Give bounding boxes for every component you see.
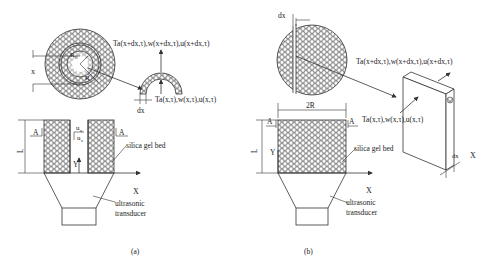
slab-element xyxy=(400,72,460,178)
label-L-a: L xyxy=(16,148,25,153)
label-transducer-a-2: transducer xyxy=(115,209,147,218)
caption-b: (b) xyxy=(304,247,313,256)
cylinder-cross-section xyxy=(277,14,396,97)
label-bed-a: silica gel bed xyxy=(126,141,166,150)
label-L-b: L xyxy=(250,148,259,153)
label-2R: 2R xyxy=(306,101,315,110)
caption-a: (a) xyxy=(131,247,140,256)
label-Y-a: Y xyxy=(73,160,79,169)
label-r: R xyxy=(85,74,90,82)
label-top-flux-b: Ta(x+dx,τ),w(x+dx,τ),u(x+dx,τ) xyxy=(356,57,453,66)
label-A-right-b: A xyxy=(349,117,355,126)
label-transducer-a-1: ultrasonic xyxy=(115,199,145,208)
panel-b: dx Ta(x+dx,τ),w(x+dx,τ),u(x+dx,τ) Ta(x,τ… xyxy=(250,11,476,256)
label-A-left-a: A xyxy=(33,128,39,137)
label-X-a: X xyxy=(133,187,139,196)
panel-a: x R 0 R Ta(x+dx,τ),w(x+dx,τ),u(x+dx,τ) T… xyxy=(16,29,217,256)
label-dx-slab: dx xyxy=(452,152,459,159)
label-Y-b: Y xyxy=(270,148,276,157)
label-A-left-b: A xyxy=(267,117,273,126)
label-X-b: X xyxy=(366,186,372,195)
label-bottom-flux-a: Ta(x,τ),w(x,τ),u(x,τ) xyxy=(155,95,217,104)
label-transducer-b-2: transducer xyxy=(346,208,378,217)
label-A-right-a: A xyxy=(119,128,125,137)
label-bed-b: silica gel bed xyxy=(354,144,394,153)
diagram-canvas: x R 0 R Ta(x+dx,τ),w(x+dx,τ),u(x+dx,τ) T… xyxy=(0,0,489,271)
label-transducer-b-1: ultrasonic xyxy=(346,198,376,207)
label-x: x xyxy=(31,67,35,76)
label-X-slab: X xyxy=(470,151,476,160)
label-bottom-flux-b: Ta(x,τ),w(x,τ),u(x,τ) xyxy=(362,115,424,124)
label-dx-b-top: dx xyxy=(278,11,286,20)
label-top-flux-a: Ta(x+dx,τ),w(x+dx,τ),u(x+dx,τ) xyxy=(113,39,210,48)
label-us-sub: s xyxy=(81,138,83,143)
label-dx-a: dx xyxy=(137,106,145,115)
